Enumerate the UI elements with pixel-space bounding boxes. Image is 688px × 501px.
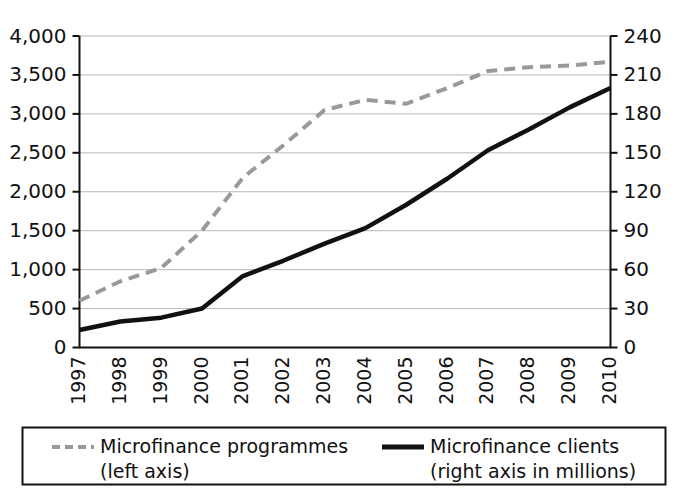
x-axis-tick-label: 2007 bbox=[475, 357, 497, 405]
x-axis-tick-label: 1999 bbox=[149, 357, 171, 405]
x-axis-tick-label: 1998 bbox=[108, 357, 130, 405]
y-axis-right-tick-label: 150 bbox=[624, 140, 662, 164]
legend-label-primary: Microfinance clients bbox=[430, 435, 619, 457]
x-axis-tick-label: 2010 bbox=[598, 357, 620, 405]
y-axis-right-tick-label: 120 bbox=[624, 179, 662, 203]
y-axis-left-tick-label: 4,000 bbox=[9, 24, 66, 48]
x-axis-tick-label: 2001 bbox=[230, 357, 252, 405]
x-axis-tick-label: 2005 bbox=[394, 357, 416, 405]
y-axis-right-tick-label: 210 bbox=[624, 62, 662, 86]
y-axis-left-tick-label: 2,500 bbox=[9, 140, 66, 164]
legend-label-primary: Microfinance programmes bbox=[100, 435, 348, 457]
y-axis-left-tick-label: 2,000 bbox=[9, 179, 66, 203]
chart-figure: 05001,0001,5002,0002,5003,0003,5004,000 … bbox=[0, 0, 688, 501]
x-axis-tick-label: 1997 bbox=[67, 357, 89, 405]
legend-label-secondary: (left axis) bbox=[100, 460, 190, 482]
y-axis-left-tick-label: 1,500 bbox=[9, 218, 66, 242]
x-axis-tick-label: 2003 bbox=[312, 357, 334, 405]
x-axis-tick-label: 2004 bbox=[353, 357, 375, 405]
y-axis-right-tick-label: 90 bbox=[624, 218, 649, 242]
y-axis-left-tick-label: 3,500 bbox=[9, 62, 66, 86]
y-axis-right-tick-label: 60 bbox=[624, 257, 649, 281]
y-axis-right-tick-label: 240 bbox=[624, 24, 662, 48]
y-axis-left-tick-label: 3,000 bbox=[9, 101, 66, 125]
y-axis-left-tick-label: 500 bbox=[28, 296, 66, 320]
x-axis-tick-label: 2000 bbox=[190, 357, 212, 405]
y-axis-left-tick-label: 0 bbox=[54, 335, 67, 359]
y-axis-right-tick-label: 180 bbox=[624, 101, 662, 125]
x-axis-tick-label: 2002 bbox=[271, 357, 293, 405]
x-axis-tick-label: 2006 bbox=[435, 357, 457, 405]
y-axis-right-tick-label: 30 bbox=[624, 296, 649, 320]
x-axis-tick-label: 2008 bbox=[516, 357, 538, 405]
dual-axis-line-chart: 05001,0001,5002,0002,5003,0003,5004,000 … bbox=[0, 0, 688, 501]
legend-label-secondary: (right axis in millions) bbox=[430, 460, 636, 482]
x-axis-tick-label: 2009 bbox=[557, 357, 579, 405]
y-axis-right-tick-label: 0 bbox=[624, 335, 637, 359]
y-axis-left-tick-label: 1,000 bbox=[9, 257, 66, 281]
